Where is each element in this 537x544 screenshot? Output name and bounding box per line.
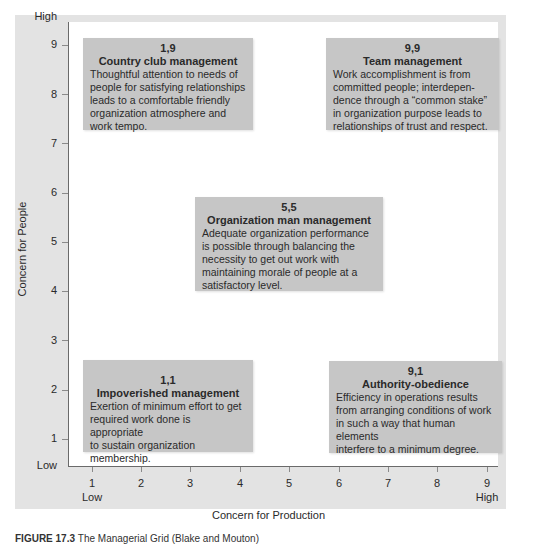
box-line: Exertion of minimum effort to get bbox=[90, 400, 246, 413]
y-tick-label-9: 9 bbox=[27, 38, 57, 50]
box-title: Organization man management bbox=[202, 214, 376, 227]
y-tick-2 bbox=[62, 390, 68, 391]
box-line: in such a way that human elements bbox=[336, 417, 495, 443]
box-line: is possible through balancing the bbox=[202, 240, 376, 253]
box-line: from arranging conditions of work bbox=[336, 404, 495, 417]
x-high-label: High bbox=[467, 491, 507, 503]
x-tick-7 bbox=[388, 467, 389, 472]
box-line: committed people; interdepen- bbox=[333, 81, 492, 94]
x-tick-2 bbox=[141, 467, 142, 472]
x-tick-4 bbox=[240, 467, 241, 472]
y-tick-8 bbox=[62, 94, 68, 95]
caption-text: The Managerial Grid (Blake and Mouton) bbox=[78, 533, 259, 544]
box-title: Impoverished management bbox=[90, 387, 246, 400]
box-authority-obedience: 9,1 Authority-obedience Efficiency in op… bbox=[329, 361, 502, 453]
box-line: required work done is appropriate bbox=[90, 413, 246, 439]
y-tick-4 bbox=[62, 291, 68, 292]
box-coordinate: 1,1 bbox=[90, 374, 246, 387]
x-tick-label-1: 1 bbox=[77, 477, 107, 489]
y-low-label: Low bbox=[27, 459, 57, 471]
y-tick-6 bbox=[62, 193, 68, 194]
box-line: interfere to a minimum degree. bbox=[336, 443, 495, 456]
y-tick-3 bbox=[62, 340, 68, 341]
x-tick-label-6: 6 bbox=[324, 477, 354, 489]
x-tick-label-3: 3 bbox=[175, 477, 205, 489]
box-country-club-management: 1,9 Country club management Thoughtful a… bbox=[83, 38, 253, 130]
box-line: Thoughtful attention to needs of bbox=[90, 68, 246, 81]
box-organization-man-management: 5,5 Organization man management Adequate… bbox=[195, 197, 383, 291]
box-title: Authority-obedience bbox=[336, 378, 495, 391]
x-tick-label-7: 7 bbox=[373, 477, 403, 489]
box-coordinate: 9,9 bbox=[333, 42, 492, 55]
y-high-label: High bbox=[27, 10, 57, 22]
x-tick-label-8: 8 bbox=[422, 477, 452, 489]
x-tick-label-4: 4 bbox=[225, 477, 255, 489]
y-tick-7 bbox=[62, 143, 68, 144]
box-coordinate: 9,1 bbox=[336, 365, 495, 378]
box-title: Team management bbox=[333, 55, 492, 68]
y-tick-label-7: 7 bbox=[27, 137, 57, 149]
box-line: leads to a comfortable friendly bbox=[90, 94, 246, 107]
box-coordinate: 1,9 bbox=[90, 42, 246, 55]
x-low-label: Low bbox=[72, 491, 112, 503]
x-tick-8 bbox=[437, 467, 438, 472]
x-tick-label-2: 2 bbox=[126, 477, 156, 489]
box-line: organization atmosphere and bbox=[90, 107, 246, 120]
y-axis-title: Concern for People bbox=[16, 179, 28, 319]
caption-label: FIGURE 17.3 bbox=[15, 533, 75, 544]
box-line: satisfactory level. bbox=[202, 279, 376, 292]
y-tick-5 bbox=[62, 242, 68, 243]
x-tick-1 bbox=[92, 467, 93, 472]
y-tick-label-8: 8 bbox=[27, 88, 57, 100]
box-line: Adequate organization performance bbox=[202, 227, 376, 240]
box-coordinate: 5,5 bbox=[202, 201, 376, 214]
box-line: in organization purpose leads to bbox=[333, 107, 492, 120]
x-tick-3 bbox=[190, 467, 191, 472]
box-line: Work accomplishment is from bbox=[333, 68, 492, 81]
x-tick-label-9: 9 bbox=[472, 477, 502, 489]
box-line: dence through a “common stake” bbox=[333, 94, 492, 107]
y-tick-label-2: 2 bbox=[27, 383, 57, 395]
box-line: to sustain organization membership. bbox=[90, 439, 246, 465]
x-axis-title: Concern for Production bbox=[0, 509, 537, 521]
box-team-management: 9,9 Team management Work accomplishment … bbox=[326, 38, 499, 130]
x-tick-label-5: 5 bbox=[274, 477, 304, 489]
box-line: work tempo. bbox=[90, 120, 246, 133]
x-tick-9 bbox=[487, 467, 488, 472]
x-tick-5 bbox=[289, 467, 290, 472]
box-line: maintaining morale of people at a bbox=[202, 266, 376, 279]
y-tick-1 bbox=[62, 439, 68, 440]
box-impoverished-management: 1,1 Impoverished management Exertion of … bbox=[83, 360, 253, 452]
y-tick-9 bbox=[62, 45, 68, 46]
y-tick-label-3: 3 bbox=[27, 334, 57, 346]
box-line: people for satisfying relationships bbox=[90, 81, 246, 94]
y-tick-label-1: 1 bbox=[27, 432, 57, 444]
figure-caption: FIGURE 17.3 The Managerial Grid (Blake a… bbox=[15, 533, 259, 544]
box-title: Country club management bbox=[90, 55, 246, 68]
y-tick-label-6: 6 bbox=[27, 186, 57, 198]
x-tick-6 bbox=[339, 467, 340, 472]
box-line: necessity to get out work with bbox=[202, 253, 376, 266]
box-line: relationships of trust and respect. bbox=[333, 120, 492, 133]
box-line: Efficiency in operations results bbox=[336, 391, 495, 404]
y-tick-label-5: 5 bbox=[27, 235, 57, 247]
y-tick-label-4: 4 bbox=[27, 284, 57, 296]
